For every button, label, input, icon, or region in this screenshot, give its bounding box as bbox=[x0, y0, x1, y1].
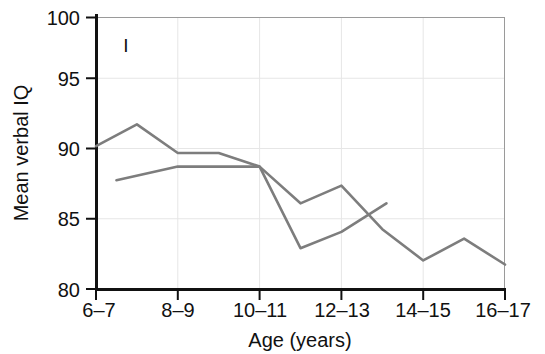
y-tick-label-80: 80 bbox=[58, 279, 80, 301]
y-tick-label-100: 100 bbox=[47, 7, 80, 29]
x-tick-label-10-11: 10–11 bbox=[233, 299, 287, 321]
x-tick-label-14-15: 14–15 bbox=[395, 299, 451, 321]
y-tick-label-95: 95 bbox=[58, 68, 80, 90]
x-tick-label-16-17: 16–17 bbox=[475, 299, 531, 321]
y-tick-label-90: 90 bbox=[58, 138, 80, 160]
panel-label: I bbox=[123, 35, 128, 56]
x-axis-title: Age (years) bbox=[248, 329, 351, 351]
y-tick-label-85: 85 bbox=[58, 208, 80, 230]
x-tick-label-8-9: 8–9 bbox=[161, 299, 194, 321]
y-axis-ticks bbox=[86, 18, 96, 290]
chart-screenshot: 100 95 90 85 80 6–7 8–9 10–11 12–13 14–1… bbox=[0, 0, 545, 354]
x-tick-label-6-7: 6–7 bbox=[82, 299, 115, 321]
y-axis-title: Mean verbal IQ bbox=[10, 85, 32, 222]
x-tick-label-12-13: 12–13 bbox=[314, 299, 370, 321]
mean-verbal-iq-line-chart: 100 95 90 85 80 6–7 8–9 10–11 12–13 14–1… bbox=[0, 0, 545, 354]
